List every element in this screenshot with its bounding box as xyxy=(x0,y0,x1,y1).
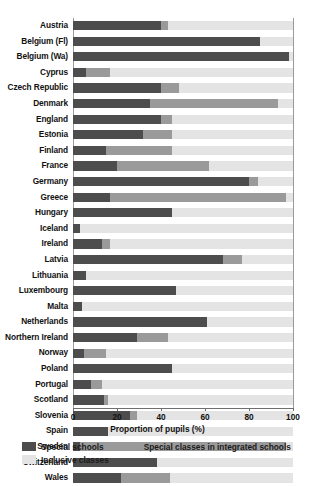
x-tick-label: 80 xyxy=(244,412,253,422)
stacked-bar xyxy=(73,21,293,30)
bar-row: Czech Republic xyxy=(73,80,293,96)
bar-segment xyxy=(121,473,169,482)
legend-label-special-schools: Special schools xyxy=(41,442,104,452)
bar-segment xyxy=(258,177,293,186)
legend-item-special-classes: Special classes in integrated schools xyxy=(125,442,291,452)
legend-swatch-special-schools xyxy=(22,442,36,451)
category-label: Denmark xyxy=(33,96,68,112)
gridline-100 xyxy=(293,18,294,408)
bar-segment xyxy=(117,161,209,170)
bar-segment xyxy=(150,99,278,108)
bar-segment xyxy=(289,52,293,61)
bar-segment xyxy=(73,83,161,92)
category-label: Hungary xyxy=(35,205,68,221)
stacked-bar xyxy=(73,208,293,217)
bar-row: Austria xyxy=(73,18,293,34)
bar-segment xyxy=(278,99,293,108)
stacked-bar xyxy=(73,302,293,311)
x-tick xyxy=(73,408,74,411)
bar-segment xyxy=(102,239,111,248)
bar-segment xyxy=(176,286,293,295)
bar-segment xyxy=(73,130,143,139)
bar-segment xyxy=(170,473,293,482)
legend-row-1: Special schools Special classes in integ… xyxy=(22,440,307,453)
stacked-bar xyxy=(73,239,293,248)
bar-row: Netherlands xyxy=(73,314,293,330)
category-label: Wales xyxy=(45,470,68,486)
stacked-bar xyxy=(73,83,293,92)
bar-segment xyxy=(73,364,172,373)
bar-row: Cyprus xyxy=(73,65,293,81)
bar-segment xyxy=(73,193,110,202)
category-label: Portugal xyxy=(35,377,68,393)
category-label: Malta xyxy=(47,299,68,315)
bar-row: Norway xyxy=(73,345,293,361)
bar-row: Hungary xyxy=(73,205,293,221)
category-label: France xyxy=(41,158,68,174)
bar-segment xyxy=(86,68,110,77)
stacked-bar xyxy=(73,177,293,186)
bar-segment xyxy=(242,255,293,264)
x-tick xyxy=(205,408,206,411)
category-label: Latvia xyxy=(45,252,68,268)
stacked-bar xyxy=(73,68,293,77)
bar-segment xyxy=(168,21,293,30)
bar-segment xyxy=(161,115,172,124)
bar-rows: AustriaBelgium (Fl)Belgium (Wa)CyprusCze… xyxy=(73,18,293,486)
category-label: Iceland xyxy=(40,221,68,237)
stacked-bar xyxy=(73,380,293,389)
bar-segment xyxy=(73,208,172,217)
bar-row: Ireland xyxy=(73,236,293,252)
stacked-bar xyxy=(73,115,293,124)
bar-segment xyxy=(223,255,243,264)
category-label: Cyprus xyxy=(40,65,68,81)
category-label: England xyxy=(36,112,68,128)
bar-row: Belgium (Fl) xyxy=(73,34,293,50)
bar-segment xyxy=(73,224,80,233)
bar-row: England xyxy=(73,112,293,128)
category-label: Finland xyxy=(39,143,68,159)
category-label: Ireland xyxy=(41,236,68,252)
x-tick-label: 20 xyxy=(112,412,121,422)
bar-segment xyxy=(84,349,106,358)
bar-segment xyxy=(73,395,104,404)
bar-segment xyxy=(137,333,168,342)
category-label: Northern Ireland xyxy=(5,330,68,346)
bar-segment xyxy=(106,349,293,358)
bar-segment xyxy=(172,130,293,139)
stacked-bar xyxy=(73,255,293,264)
bar-segment xyxy=(168,333,293,342)
bar-segment xyxy=(172,208,293,217)
category-label: Greece xyxy=(40,190,68,206)
x-tick-label: 100 xyxy=(286,412,300,422)
x-tick-label: 0 xyxy=(71,412,76,422)
bar-row: Poland xyxy=(73,361,293,377)
bar-row: Portugal xyxy=(73,377,293,393)
bar-segment xyxy=(73,380,91,389)
category-label: Norway xyxy=(39,345,68,361)
stacked-bar xyxy=(73,52,293,61)
bar-segment xyxy=(73,333,137,342)
stacked-bar xyxy=(73,364,293,373)
bar-row: Germany xyxy=(73,174,293,190)
bar-row: Northern Ireland xyxy=(73,330,293,346)
bar-segment xyxy=(73,239,102,248)
bar-row: Malta xyxy=(73,299,293,315)
bar-row: France xyxy=(73,158,293,174)
category-label: Scotland xyxy=(34,392,68,408)
bar-segment xyxy=(110,193,286,202)
legend-item-special-schools: Special schools xyxy=(22,442,104,452)
stacked-bar xyxy=(73,99,293,108)
chart-legend: Special schools Special classes in integ… xyxy=(22,440,307,466)
x-tick xyxy=(249,408,250,411)
bar-segment xyxy=(73,146,106,155)
bar-row: Latvia xyxy=(73,252,293,268)
category-label: Lithuania xyxy=(32,268,68,284)
x-tick-label: 40 xyxy=(156,412,165,422)
bar-segment xyxy=(110,68,293,77)
bar-segment xyxy=(172,146,293,155)
bar-segment xyxy=(73,317,207,326)
category-label: Belgium (Wa) xyxy=(17,49,69,65)
